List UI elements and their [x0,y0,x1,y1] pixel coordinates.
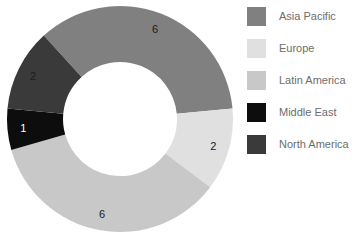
legend-item[interactable]: Middle East [247,102,336,122]
slice-value-label: 2 [210,140,216,152]
legend-item-label: Latin America [279,75,346,86]
legend-item-label: North America [279,139,349,150]
legend-color-swatch [247,135,266,154]
legend-item[interactable]: North America [247,134,349,154]
slice-value-label: 6 [152,23,158,35]
donut-chart-svg: 62612 [0,0,240,243]
slice-value-label: 2 [30,70,36,82]
legend-color-swatch [247,7,266,26]
slice-value-label: 6 [99,208,105,220]
legend-item[interactable]: Latin America [247,70,346,90]
chart-legend: Asia PacificEuropeLatin AmericaMiddle Ea… [247,0,356,160]
legend-color-swatch [247,39,266,58]
donut-slice[interactable] [44,6,233,114]
donut-chart-plot-area: 62612 [0,0,240,243]
legend-item[interactable]: Asia Pacific [247,6,336,26]
legend-item-label: Middle East [279,107,336,118]
legend-item-label: Asia Pacific [279,11,336,22]
legend-item[interactable]: Europe [247,38,314,58]
legend-color-swatch [247,71,266,90]
slice-value-label: 1 [20,122,26,134]
legend-color-swatch [247,103,266,122]
donut-chart-figure: 62612 Asia PacificEuropeLatin AmericaMid… [0,0,356,243]
legend-item-label: Europe [279,43,314,54]
